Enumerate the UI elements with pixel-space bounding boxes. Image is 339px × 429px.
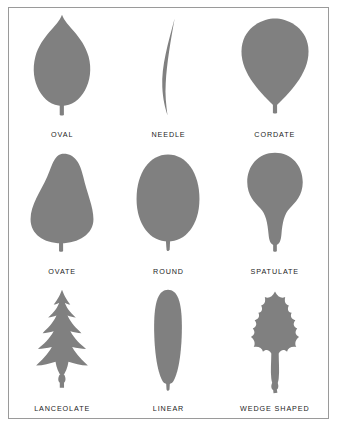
leaf-label: OVATE	[48, 265, 76, 277]
leaf-cell-wedge-shaped: WEDGE SHAPED	[222, 281, 328, 418]
spatulate-leaf-icon	[222, 145, 328, 266]
leaf-cell-oval: OVAL	[9, 8, 115, 145]
leaf-cell-round: ROUND	[115, 145, 221, 282]
leaf-label: SPATULATE	[251, 265, 299, 277]
leaf-shapes-figure: OVAL NEEDLE CORDATE	[8, 7, 329, 419]
leaf-label: ROUND	[153, 265, 184, 277]
lanceolate-leaf-icon	[9, 281, 115, 402]
leaf-label: LANCEOLATE	[34, 402, 90, 414]
linear-leaf-icon	[115, 281, 221, 402]
ovate-leaf-icon	[9, 145, 115, 266]
needle-leaf-icon	[115, 8, 221, 128]
leaf-cell-cordate: CORDATE	[222, 8, 328, 145]
leaf-label: NEEDLE	[151, 128, 185, 141]
leaf-cell-lanceolate: LANCEOLATE	[9, 281, 115, 418]
cordate-leaf-icon	[222, 8, 328, 128]
leaf-label: LINEAR	[153, 402, 184, 414]
wedge-shaped-leaf-icon	[222, 281, 328, 402]
leaf-cell-needle: NEEDLE	[115, 8, 221, 145]
oval-leaf-icon	[9, 8, 115, 128]
round-leaf-icon	[115, 145, 221, 266]
leaf-shapes-grid: OVAL NEEDLE CORDATE	[9, 8, 328, 418]
leaf-cell-ovate: OVATE	[9, 145, 115, 282]
leaf-cell-spatulate: SPATULATE	[222, 145, 328, 282]
leaf-label: WEDGE SHAPED	[240, 402, 310, 414]
leaf-cell-linear: LINEAR	[115, 281, 221, 418]
leaf-label: CORDATE	[254, 128, 295, 141]
leaf-label: OVAL	[51, 128, 73, 141]
